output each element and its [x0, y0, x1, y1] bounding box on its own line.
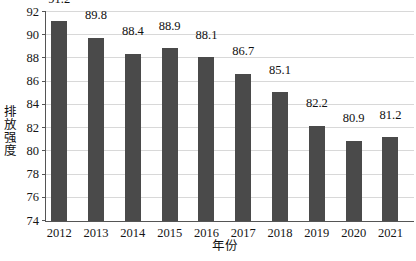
bar-value-label: 88.9 — [159, 19, 181, 34]
gridline — [46, 34, 414, 35]
y-tick-label: 74 — [27, 215, 40, 228]
bar[interactable] — [88, 38, 104, 221]
x-tick-label: 2021 — [378, 227, 403, 240]
bar-value-label: 91.2 — [48, 0, 70, 7]
y-tick-label: 76 — [27, 192, 40, 205]
bar-value-label: 85.1 — [269, 63, 291, 78]
bar-value-label: 81.2 — [380, 108, 402, 123]
y-tick-label: 78 — [27, 168, 40, 181]
x-tick-label: 2018 — [268, 227, 293, 240]
y-tick-mark — [42, 127, 46, 128]
x-tick-label: 2015 — [157, 227, 182, 240]
y-tick-mark — [42, 104, 46, 105]
bar-value-label: 86.7 — [232, 45, 254, 60]
y-tick-mark — [42, 174, 46, 175]
y-tick-label: 80 — [27, 145, 40, 158]
bar[interactable] — [198, 57, 214, 221]
x-tick-label: 2013 — [84, 227, 109, 240]
bar[interactable] — [272, 92, 288, 221]
bar-value-label: 82.2 — [306, 97, 328, 112]
x-tick-label: 2020 — [341, 227, 366, 240]
bar[interactable] — [51, 21, 67, 221]
bar-value-label: 80.9 — [343, 112, 365, 127]
bar[interactable] — [309, 126, 325, 221]
y-tick-mark — [42, 11, 46, 12]
y-tick-label: 92 — [27, 6, 40, 19]
bar[interactable] — [125, 54, 141, 221]
bar-value-label: 89.8 — [85, 9, 107, 24]
bar[interactable] — [162, 48, 178, 221]
bar-value-label: 88.1 — [196, 28, 218, 43]
x-tick-label: 2014 — [120, 227, 145, 240]
bar[interactable] — [235, 74, 251, 221]
x-tick-label: 2012 — [47, 227, 72, 240]
bar-value-label: 88.4 — [122, 25, 144, 40]
x-tick-label: 2019 — [304, 227, 329, 240]
y-tick-label: 90 — [27, 29, 40, 42]
y-tick-label: 82 — [27, 122, 40, 135]
bar[interactable] — [346, 141, 362, 221]
x-axis-label: 年份 — [212, 240, 238, 253]
bar[interactable] — [382, 137, 398, 221]
y-tick-mark — [42, 197, 46, 198]
plot-area: 74767880828486889092 91.289.888.488.988.… — [45, 12, 414, 222]
y-tick-mark — [42, 220, 46, 221]
y-tick-mark — [42, 81, 46, 82]
y-tick-mark — [42, 57, 46, 58]
y-tick-label: 88 — [27, 52, 40, 65]
y-tick-mark — [42, 150, 46, 151]
y-tick-mark — [42, 34, 46, 35]
bar-chart: 排放强度 74767880828486889092 91.289.888.488… — [0, 0, 416, 261]
y-tick-label: 84 — [27, 99, 40, 112]
y-tick-label: 86 — [27, 75, 40, 88]
y-axis-label: 排放强度 — [2, 105, 15, 157]
